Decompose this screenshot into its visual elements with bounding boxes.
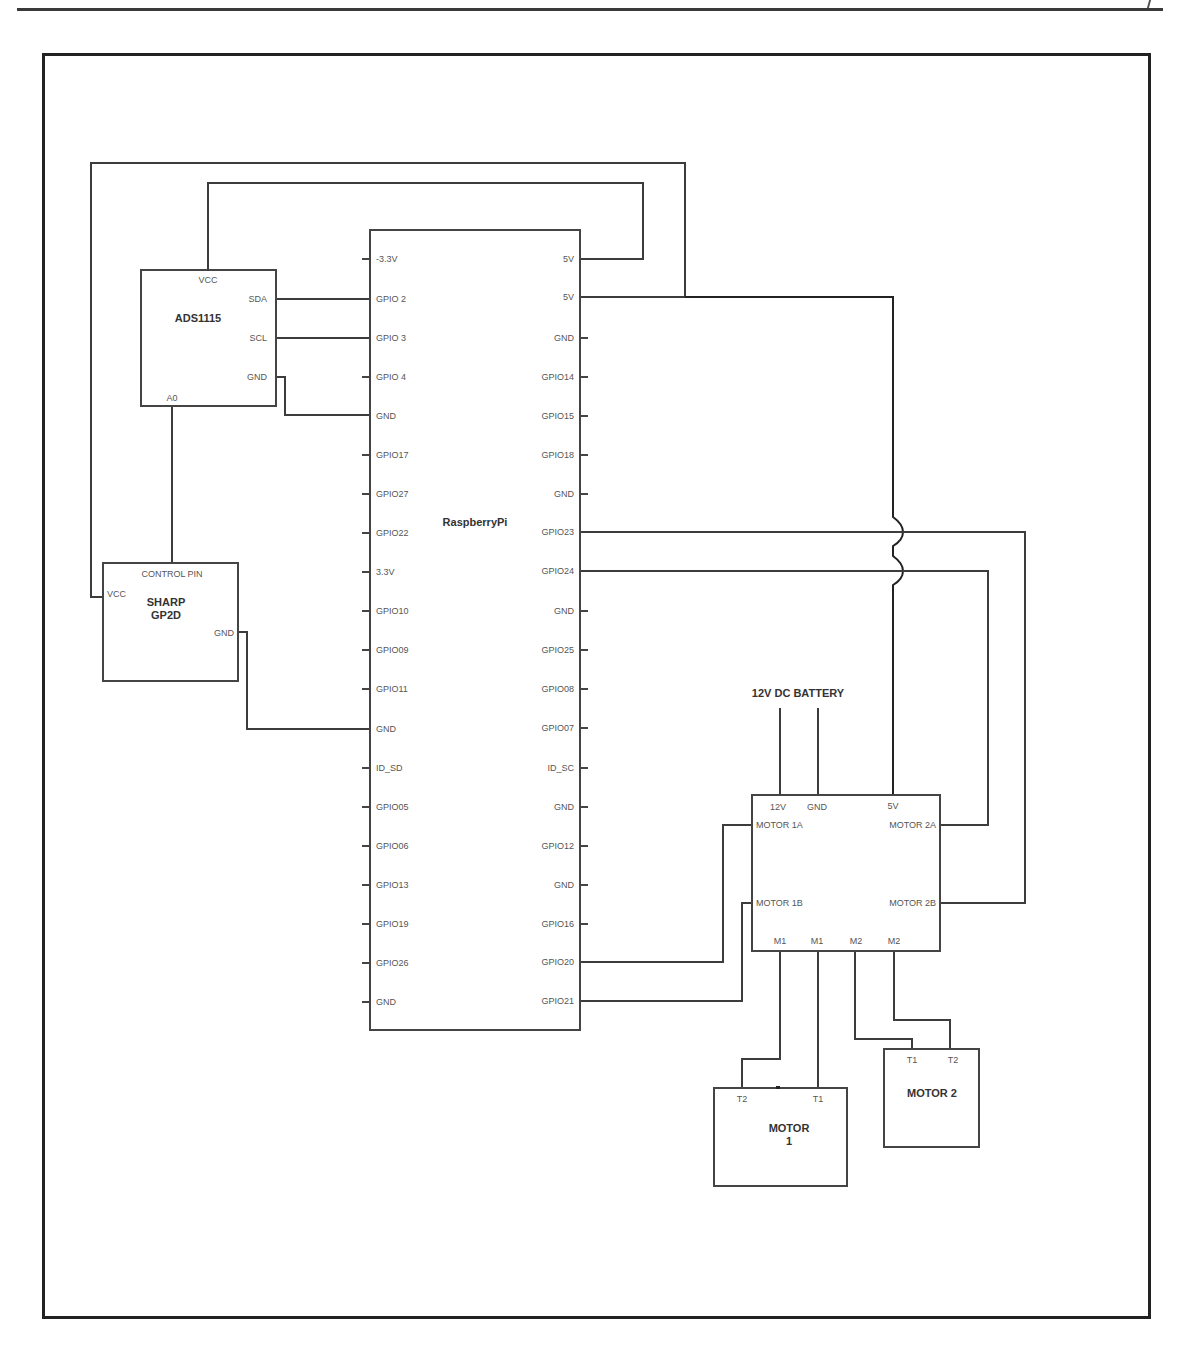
rpi-left-pin: GPIO05 (376, 802, 409, 812)
rpi-left-pin: GND (376, 997, 397, 1007)
rpi-right-pin: GPIO16 (541, 919, 574, 929)
sharp-sensor: CONTROL PIN VCC SHARP GP2D GND (103, 563, 238, 681)
rpi-left-pin: ID_SD (376, 763, 403, 773)
rpi-right-pin: GPIO14 (541, 372, 574, 382)
rpi-left-pin: GPIO26 (376, 958, 409, 968)
sharp-pin-control: CONTROL PIN (141, 569, 202, 579)
motor1-pin-t2: T2 (737, 1094, 748, 1104)
ads-pin-vcc: VCC (198, 275, 218, 285)
rpi-left-pin: GPIO10 (376, 606, 409, 616)
wire-sharp-gnd (238, 632, 370, 729)
rpi-left-pin: GPIO09 (376, 645, 409, 655)
motor-1: T2 T1 MOTOR 1 (714, 1086, 847, 1186)
rpi-right-pin: GPIO25 (541, 645, 574, 655)
wire-5v-to-driver (685, 297, 903, 795)
sharp-title-line1: SHARP (147, 596, 186, 608)
rpi-left-pin: GPIO11 (376, 684, 408, 694)
rpi-left-pin: GND (376, 724, 397, 734)
rpi-left-pin: -3.3V (376, 254, 398, 264)
rpi-left-pin: GPIO27 (376, 489, 409, 499)
ads-pin-sda: SDA (248, 294, 267, 304)
ads-pin-scl: SCL (249, 333, 267, 343)
rpi-left-pin: GPIO22 (376, 528, 409, 538)
rpi-right-pin: GPIO07 (541, 723, 574, 733)
rpi-right-pin: GPIO21 (541, 996, 574, 1006)
rpi-right-pin: GPIO08 (541, 684, 574, 694)
rpi-left-pin-ticks (362, 259, 370, 1002)
driver-pin-motor2a: MOTOR 2A (889, 820, 936, 830)
motor2-pin-t2: T2 (948, 1055, 959, 1065)
rpi-left-pin: GPIO13 (376, 880, 409, 890)
rpi-right-pin: GND (554, 489, 575, 499)
motor-driver: 12V GND 5V MOTOR 1A MOTOR 2A MOTOR 1B MO… (752, 795, 940, 951)
driver-pin-gnd: GND (807, 802, 828, 812)
circuit-schematic: VCC SDA ADS1115 SCL GND A0 CONTROL PIN V… (0, 0, 1194, 1357)
driver-pin-motor1b: MOTOR 1B (756, 898, 803, 908)
rpi-left-pin: GPIO 4 (376, 372, 406, 382)
rpi-title: RaspberryPi (443, 516, 508, 528)
ads-title: ADS1115 (175, 312, 221, 324)
sharp-pin-vcc: VCC (107, 589, 127, 599)
motor2-pin-t1: T1 (907, 1055, 918, 1065)
rpi-right-pin: GPIO15 (541, 411, 574, 421)
rpi-right-pin: GND (554, 333, 575, 343)
motor1-marker (776, 1086, 780, 1089)
motor1-title-line1: MOTOR (769, 1122, 810, 1134)
rpi-right-pin: GND (554, 606, 575, 616)
rpi-right-pin: GPIO12 (541, 841, 574, 851)
motor1-pin-t1: T1 (813, 1094, 824, 1104)
wire-gpio20-motor1a (580, 825, 752, 962)
motor1-title-line2: 1 (786, 1135, 792, 1147)
wire-m2-t1 (855, 951, 912, 1049)
rpi-left-pin: GND (376, 411, 397, 421)
rpi-left-pin: GPIO 2 (376, 294, 406, 304)
wire-m1-t2 (742, 951, 780, 1088)
ads1115-module: VCC SDA ADS1115 SCL GND A0 (141, 270, 276, 406)
rpi-left-pin: GPIO17 (376, 450, 409, 460)
rpi-left-pin: GPIO 3 (376, 333, 406, 343)
driver-pin-m2a: M2 (850, 936, 863, 946)
rpi-right-pin: ID_SC (547, 763, 574, 773)
rpi-left-pin: 3.3V (376, 567, 395, 577)
motor2-title: MOTOR 2 (907, 1087, 957, 1099)
driver-pin-5v: 5V (887, 801, 898, 811)
rpi-right-pin: GPIO18 (541, 450, 574, 460)
rpi-right-pin: GND (554, 802, 575, 812)
battery-label: 12V DC BATTERY (752, 687, 845, 699)
ads-pin-a0: A0 (166, 393, 177, 403)
sharp-pin-gnd: GND (214, 628, 235, 638)
driver-pin-12v: 12V (770, 802, 786, 812)
wire-ads-gnd (276, 377, 370, 415)
rpi-right-pin: GPIO23 (541, 527, 574, 537)
wire-m2-t2 (894, 951, 950, 1049)
wire-gpio21-motor1b (580, 903, 752, 1001)
rpi-left-pin: GPIO19 (376, 919, 409, 929)
driver-pin-m1b: M1 (811, 936, 824, 946)
driver-pin-motor1a: MOTOR 1A (756, 820, 803, 830)
driver-pin-m2b: M2 (888, 936, 901, 946)
raspberry-pi: RaspberryPi (362, 230, 588, 1030)
rpi-right-pin-ticks (580, 338, 588, 924)
motor-2: T1 T2 MOTOR 2 (884, 1049, 979, 1147)
rpi-right-pin: GPIO20 (541, 957, 574, 967)
driver-pin-motor2b: MOTOR 2B (889, 898, 936, 908)
rpi-right-pin: 5V (563, 292, 574, 302)
rpi-left-pin: GPIO06 (376, 841, 409, 851)
rpi-right-pin: 5V (563, 254, 574, 264)
rpi-right-pin: GND (554, 880, 575, 890)
sharp-title-line2: GP2D (151, 609, 181, 621)
ads-pin-gnd: GND (247, 372, 268, 382)
rpi-right-pin: GPIO24 (541, 566, 574, 576)
driver-pin-m1a: M1 (774, 936, 787, 946)
